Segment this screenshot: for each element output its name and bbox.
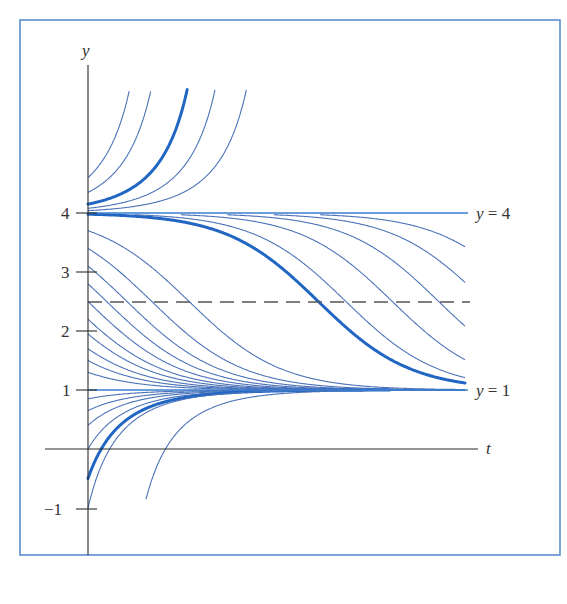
tick-3: 3 [61, 263, 97, 282]
solution-curve-between-1-4 [88, 231, 465, 390]
solution-curve-between-1-4 [88, 266, 465, 390]
solution-curve-below-1 [88, 390, 390, 478]
solution-curve-between-1-4 [227, 215, 465, 326]
tick-label-1: 1 [62, 381, 71, 400]
solution-curve-between-1-4 [181, 215, 465, 360]
solution-curve-between-1-4 [88, 284, 465, 390]
solution-curves-diagram: y t 4 3 2 1 −1 y = 4 y = 1 [0, 0, 567, 604]
solution-curve-between-1-4 [88, 302, 465, 391]
solution-curve-above-4 [88, 90, 215, 208]
label-y-equals-1: y = 1 [474, 381, 510, 400]
solution-curve-below-1 [146, 390, 390, 499]
label-y-equals-4: y = 4 [474, 204, 511, 223]
tick-2: 2 [61, 322, 97, 341]
solution-curve-between-1-4 [88, 334, 465, 390]
figure-frame [20, 20, 560, 555]
solution-curve-above-4 [88, 91, 151, 192]
t-axis-label: t [486, 439, 492, 458]
solution-curve-between-1-4 [88, 214, 465, 383]
solution-curve-above-4 [88, 90, 187, 205]
tick-label-3: 3 [61, 263, 70, 282]
tick-label-4: 4 [61, 204, 70, 223]
tick-label-minus-1: −1 [44, 500, 62, 519]
solution-curves [88, 90, 465, 508]
solution-curve-between-1-4 [320, 215, 465, 247]
solution-curve-above-4 [88, 91, 129, 177]
solution-curve-between-1-4 [274, 215, 465, 283]
tick-label-2: 2 [61, 322, 70, 341]
tick-4: 4 [61, 204, 97, 223]
y-axis-label: y [80, 41, 90, 60]
tick-1: 1 [62, 381, 97, 400]
